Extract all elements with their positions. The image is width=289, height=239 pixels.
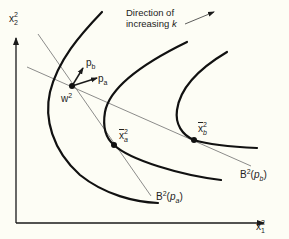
endowment-point-w2 (69, 83, 75, 89)
y-axis-label-sup: 2 (14, 11, 18, 18)
budget-label-pb-base: B (240, 169, 247, 180)
y-axis-label-sub: 2 (14, 19, 18, 26)
price-label-pb: pb (86, 58, 95, 70)
budget-label-pa-close: ) (179, 191, 182, 202)
y-axis-label: x22 (9, 14, 20, 24)
direction-annotation: Direction of increasing k (126, 7, 177, 29)
x-axis-label-sup: 2 (261, 219, 265, 226)
x-axis-label-sub: 1 (261, 227, 265, 234)
indifference-curve-2 (104, 42, 221, 180)
direction-line2-prefix: increasing (126, 18, 172, 29)
price-label-pa-sub: a (104, 79, 108, 86)
demand-label-xb-sup: 2 (203, 121, 207, 128)
direction-arrow (185, 12, 214, 24)
x-axis-label: x21 (256, 222, 267, 232)
endowment-label-sup: 2 (68, 92, 72, 99)
direction-line2: increasing k (126, 18, 177, 29)
price-label-pb-sub: b (92, 63, 96, 70)
demand-label-xb: x2b (198, 124, 209, 134)
budget-label-pa-base: B (156, 191, 163, 202)
offer-curve-diagram: x22 x21 Direction of increasing k w2 pb … (0, 0, 289, 239)
demand-label-xa-sup: 2 (124, 128, 128, 135)
demand-point-xb (191, 137, 197, 143)
axes (16, 38, 264, 223)
budget-label-pa: B2(pa) (156, 190, 183, 204)
endowment-label: w2 (61, 92, 72, 104)
indifference-curve-3 (177, 52, 257, 148)
demand-label-xa: x2a (119, 131, 130, 141)
indifference-curve-1 (48, 12, 158, 203)
demand-point-xa (111, 142, 117, 148)
diagram-canvas (0, 0, 289, 239)
budget-label-pb-close: ) (263, 169, 266, 180)
direction-line1: Direction of (126, 7, 177, 18)
budget-label-pb: B2(pb) (240, 168, 267, 182)
direction-var-k: k (172, 18, 177, 29)
demand-label-xa-sub: a (124, 136, 128, 143)
price-label-pa: pa (98, 74, 107, 86)
demand-label-xb-sub: b (203, 129, 207, 136)
